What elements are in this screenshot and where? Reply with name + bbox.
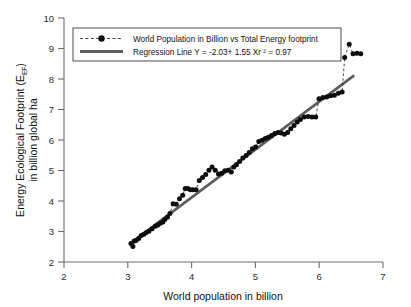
data-point [180, 193, 185, 198]
y-tick-label-8: 8 [49, 74, 54, 85]
y-axis-title: Energy Ecological Footprint (EEF) in bil… [14, 63, 39, 217]
data-point [358, 51, 363, 56]
legend-label-regression: Regression Line Y = -2.03+ 1.55 Xr ² = 0… [133, 48, 292, 57]
y-tick-label-7: 7 [49, 104, 54, 115]
y-tick-label-9: 9 [49, 43, 54, 54]
data-point [253, 145, 258, 150]
y-tick-label-6: 6 [49, 135, 54, 146]
data-point [313, 115, 318, 120]
data-point [203, 172, 208, 177]
y-axis: 10 9 8 7 6 5 4 3 2 [43, 13, 64, 268]
legend-label-series: World Population in Billion vs Total Ene… [133, 35, 319, 44]
y-tick-label-2: 2 [49, 257, 54, 268]
data-point [347, 42, 352, 47]
data-point [229, 170, 234, 175]
data-point [340, 90, 345, 95]
series-markers [129, 42, 364, 249]
x-tick-label-4: 4 [189, 271, 194, 282]
x-axis-title: World population in billion [163, 290, 283, 302]
y-tick-label-5: 5 [49, 165, 54, 176]
data-point [167, 211, 172, 216]
svg-text:Energy Ecological Footprint (E: Energy Ecological Footprint (EEF) [14, 63, 28, 217]
data-point [174, 202, 179, 207]
legend-circle-marker-icon [98, 35, 104, 41]
x-tick-label-7: 7 [380, 271, 385, 282]
chart-canvas: 10 9 8 7 6 5 4 3 2 2 3 4 5 6 7 World pop [0, 0, 411, 307]
data-point [130, 244, 135, 249]
y-axis-title-paren: ) [14, 63, 26, 67]
chart-figure: 10 9 8 7 6 5 4 3 2 2 3 4 5 6 7 World pop [0, 0, 411, 307]
y-tick-label-3: 3 [49, 226, 54, 237]
y-tick-label-10: 10 [43, 13, 54, 24]
x-tick-label-5: 5 [253, 271, 258, 282]
x-tick-label-3: 3 [125, 271, 130, 282]
chart-legend[interactable]: World Population in Billion vs Total Ene… [73, 28, 341, 61]
y-tick-label-4: 4 [49, 196, 54, 207]
y-axis-title-main: Energy Ecological Footprint (E [14, 75, 26, 217]
data-point [194, 187, 199, 192]
x-tick-label-6: 6 [317, 271, 322, 282]
x-tick-label-2: 2 [61, 271, 66, 282]
data-point [342, 55, 347, 60]
x-axis: 2 3 4 5 6 7 [61, 262, 385, 282]
y-axis-title-subscript: EF [21, 67, 28, 75]
y-axis-title-second-line: in billion global ha [27, 98, 39, 182]
